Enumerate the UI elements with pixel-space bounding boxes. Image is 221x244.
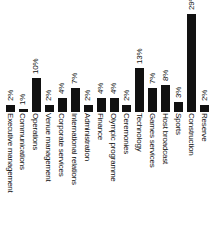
category-label-slot: Sports xyxy=(174,113,183,244)
bar-value-label: 2% xyxy=(200,90,209,101)
bar-value-label: 7% xyxy=(70,73,79,84)
bar[interactable] xyxy=(174,102,183,112)
bar[interactable] xyxy=(58,98,67,112)
category-label-slot: Communications xyxy=(19,113,28,244)
bar-value-label: 2% xyxy=(83,90,92,101)
category-label-slot: Reserve xyxy=(200,113,209,244)
category-label: Venue management xyxy=(44,113,53,181)
bar-slot: 3% xyxy=(174,0,183,112)
bar-value-label: 1% xyxy=(18,94,27,105)
category-label: International relations xyxy=(70,113,79,185)
category-axis: Executive managementCommunicationsOperat… xyxy=(0,113,221,244)
bar-value-label: 29% xyxy=(187,0,196,10)
bar[interactable] xyxy=(32,78,41,112)
bar[interactable] xyxy=(200,105,209,112)
category-label: Olympic programme xyxy=(109,113,118,182)
bar-chart: 2%1%10%2%4%7%2%4%4%2%13%7%8%3%29%2% Exec… xyxy=(0,0,221,244)
bar-slot: 4% xyxy=(58,0,67,112)
bar-slot: 2% xyxy=(6,0,15,112)
category-label: Executive management xyxy=(6,113,15,193)
category-label: Operations xyxy=(31,113,40,150)
category-label-slot: Technology xyxy=(135,113,144,244)
category-label-slot: Olympic programme xyxy=(110,113,119,244)
category-label-slot: Host broadcast xyxy=(161,113,170,244)
bar[interactable] xyxy=(84,105,93,112)
bar[interactable] xyxy=(110,98,119,112)
category-label: Corporate services xyxy=(57,113,66,177)
bar-slot: 4% xyxy=(97,0,106,112)
category-label: Games services xyxy=(148,113,157,168)
category-label: Ceremonies xyxy=(122,113,131,154)
bar-slot: 8% xyxy=(161,0,170,112)
category-label-slot: Finance xyxy=(97,113,106,244)
category-label-slot: Construction xyxy=(187,113,196,244)
category-label-slot: Administration xyxy=(84,113,93,244)
category-label-slot: Corporate services xyxy=(58,113,67,244)
bar-value-label: 3% xyxy=(174,87,183,98)
category-label-slot: Ceremonies xyxy=(122,113,131,244)
bar-slot: 7% xyxy=(71,0,80,112)
category-label-slot: Operations xyxy=(32,113,41,244)
bar-value-label: 2% xyxy=(122,90,131,101)
bar[interactable] xyxy=(71,88,80,112)
category-label: Technology xyxy=(135,113,144,151)
bar-slot: 13% xyxy=(135,0,144,112)
bar-value-label: 8% xyxy=(161,70,170,81)
category-label: Host broadcast xyxy=(161,113,170,164)
bar-value-label: 2% xyxy=(44,90,53,101)
bar-slot: 4% xyxy=(110,0,119,112)
category-label-slot: International relations xyxy=(71,113,80,244)
bar[interactable] xyxy=(19,109,28,112)
category-label: Administration xyxy=(83,113,92,161)
bar-slot: 2% xyxy=(200,0,209,112)
bar[interactable] xyxy=(161,85,170,112)
bar-slot: 2% xyxy=(122,0,131,112)
bar[interactable] xyxy=(6,105,15,112)
bar-value-label: 10% xyxy=(31,59,40,74)
bar[interactable] xyxy=(122,105,131,112)
bar-value-label: 4% xyxy=(96,83,105,94)
category-label-slot: Executive management xyxy=(6,113,15,244)
plot-area: 2%1%10%2%4%7%2%4%4%2%13%7%8%3%29%2% xyxy=(0,0,221,112)
category-label-slot: Venue management xyxy=(45,113,54,244)
bar[interactable] xyxy=(45,105,54,112)
bar[interactable] xyxy=(135,68,144,112)
bar-slot: 7% xyxy=(148,0,157,112)
bar-value-label: 4% xyxy=(109,83,118,94)
bar-value-label: 4% xyxy=(57,83,66,94)
category-label: Communications xyxy=(18,113,27,170)
bar-value-label: 7% xyxy=(148,73,157,84)
bar-slot: 29% xyxy=(187,0,196,112)
category-label-slot: Games services xyxy=(148,113,157,244)
bar[interactable] xyxy=(187,14,196,112)
category-label: Sports xyxy=(174,113,183,135)
bar-value-label: 2% xyxy=(6,90,15,101)
bar-slot: 2% xyxy=(45,0,54,112)
bar[interactable] xyxy=(97,98,106,112)
bar-slot: 2% xyxy=(84,0,93,112)
bar-slot: 1% xyxy=(19,0,28,112)
bar[interactable] xyxy=(148,88,157,112)
category-label: Reserve xyxy=(200,113,209,141)
category-label: Finance xyxy=(96,113,105,140)
bar-value-label: 13% xyxy=(135,49,144,64)
bar-slot: 10% xyxy=(32,0,41,112)
category-label: Construction xyxy=(187,113,196,156)
